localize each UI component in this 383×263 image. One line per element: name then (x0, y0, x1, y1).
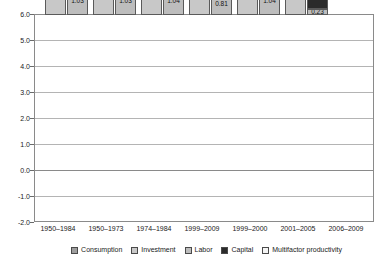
bar-group: 0.94 1.91 0.33 1.43 1.04 (139, 15, 186, 221)
chart-legend: Consumption Investment Labor Capital Mul… (34, 243, 379, 257)
bar-group: 1.47 2.95 1.85 2.03 1.04 (235, 15, 282, 221)
legend-swatch-icon (185, 247, 192, 254)
x-axis: 1950–1984 1950–1973 1974–1984 1999–2009 … (34, 225, 374, 237)
bar-pair: 1.77 2.40 1.60 1.61 1.03 (91, 15, 138, 221)
x-axis-label: 2001–2005 (272, 225, 324, 233)
legend-item-mfp: Multifactor productivity (262, 246, 342, 254)
legend-swatch-icon (262, 247, 269, 254)
x-axis-label: 2006–2009 (320, 225, 372, 233)
bar-pair: 0.41 2.06 0.80 1.45 0.81 (187, 15, 234, 221)
legend-item-consumption: Consumption (71, 246, 122, 254)
y-axis-label: 6.0 (0, 11, 30, 18)
x-axis-label: 1950–1984 (32, 225, 84, 233)
segment-investment: 2.06 (189, 0, 210, 15)
legend-swatch-icon (71, 247, 78, 254)
legend-swatch-icon (221, 247, 228, 254)
x-axis-label: 1950–1973 (80, 225, 132, 233)
segment-investment: 2.29 (45, 0, 66, 15)
segment-labor: 1.03 (67, 0, 88, 15)
y-axis-label: -1.0 (0, 193, 30, 200)
plot-area: 1.49 2.29 1.20 1.56 1.03 1.77 2.40 1.60 (34, 14, 374, 222)
y-axis-label: 3.0 (0, 89, 30, 96)
chart-container: 6.0 5.0 4.0 3.0 2.0 1.0 0.0 -1.0 -2.0 1. (0, 0, 383, 263)
segment-labor: 0.23 (307, 9, 328, 15)
legend-label: Consumption (81, 246, 122, 254)
bar-pair: 0.94 1.91 0.33 1.43 1.04 (139, 15, 186, 221)
x-axis-label: 1974–1984 (128, 225, 180, 233)
bar-group: 1.56 -1.01 1.18 -0.22 -0.40 (331, 15, 378, 221)
y-axis-label: 1.0 (0, 141, 30, 148)
x-axis-label: 1999–2000 (224, 225, 276, 233)
segment-labor: 1.04 (259, 0, 280, 15)
bar-group: 1.77 2.40 1.60 1.61 1.03 (91, 15, 138, 221)
y-axis-label: 0.0 (0, 167, 30, 174)
segment-investment: 2.95 (237, 0, 258, 15)
legend-item-capital: Capital (221, 246, 253, 254)
y-axis-tick (30, 222, 34, 223)
segment-investment: 2.11 (285, 0, 306, 15)
segment-labor: 1.03 (115, 0, 136, 15)
legend-label: Multifactor productivity (272, 246, 342, 254)
y-axis-label: -2.0 (0, 219, 30, 226)
segment-investment: 2.40 (93, 0, 114, 15)
segment-investment: 1.91 (141, 0, 162, 15)
legend-swatch-icon (131, 247, 138, 254)
y-axis-label: 4.0 (0, 63, 30, 70)
bar-pair: 1.56 -1.01 1.18 -0.22 -0.40 (331, 15, 378, 221)
bar-pair: 1.49 2.29 1.20 1.56 1.03 (43, 15, 90, 221)
bar-pair: 1.47 2.95 1.85 2.03 1.04 (235, 15, 282, 221)
bar-group: 0.41 2.06 0.80 1.45 0.81 (187, 15, 234, 221)
segment-labor: 0.81 (211, 0, 232, 15)
bar-group: 1.49 2.29 1.20 1.56 1.03 (43, 15, 90, 221)
bar-pair: 0.99 2.11 1.34 1.45 0.23 (283, 15, 330, 221)
segment-labor: 1.04 (163, 0, 184, 15)
y-axis-label: 2.0 (0, 115, 30, 122)
legend-item-labor: Labor (185, 246, 213, 254)
legend-label: Capital (231, 246, 253, 254)
bar-group: 0.99 2.11 1.34 1.45 0.23 (283, 15, 330, 221)
segment-capital: 1.45 (307, 0, 328, 9)
legend-item-investment: Investment (131, 246, 175, 254)
legend-label: Investment (141, 246, 175, 254)
y-axis-label: 5.0 (0, 37, 30, 44)
legend-label: Labor (195, 246, 213, 254)
x-axis-label: 1999–2009 (176, 225, 228, 233)
